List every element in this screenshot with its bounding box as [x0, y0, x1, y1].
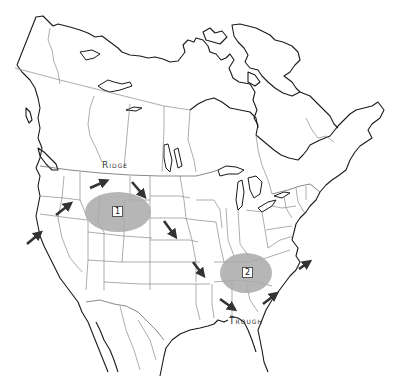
border-sask-manitoba	[162, 106, 164, 172]
arrow-plains-south	[193, 262, 203, 275]
arrow-ridge-west	[90, 181, 106, 188]
border-quebec-labrador	[306, 118, 334, 142]
haida-gwaii	[26, 108, 32, 123]
us-state-borders	[40, 172, 306, 320]
lake-athabasca	[126, 107, 142, 111]
lake-huron	[248, 176, 262, 198]
arrow-southeast	[263, 294, 276, 304]
lake-superior	[218, 166, 244, 176]
border-ab-sask	[124, 104, 130, 168]
mexico-state-borders	[120, 306, 156, 370]
arctic-islands	[203, 24, 300, 96]
border-yukon	[48, 28, 60, 84]
border-us-mexico	[86, 300, 164, 340]
zone-1-badge: 1	[112, 206, 123, 217]
border-bc-alberta	[88, 96, 102, 162]
border-us-canada	[40, 166, 320, 194]
north-america-map	[0, 0, 394, 382]
ridge-label: Ridge	[102, 160, 128, 170]
great-slave-lake	[98, 80, 132, 92]
coastline-baja	[88, 322, 118, 372]
arrow-pacific-nw	[56, 204, 70, 215]
coastline-east-canada	[256, 102, 384, 192]
great-bear-lake	[80, 50, 100, 60]
coastline-west	[17, 65, 88, 322]
arrow-plains-north	[164, 221, 175, 236]
trough-label: Trough	[229, 316, 263, 326]
labrador-coast	[300, 92, 338, 128]
coastline-north	[17, 16, 258, 135]
arrow-atlantic	[299, 262, 309, 269]
border-manitoba-ontario	[188, 110, 196, 172]
arrow-pacific-coast	[27, 233, 40, 244]
arrow-ridge-east	[132, 182, 144, 196]
hudson-bay-coast	[190, 98, 258, 128]
lake-winnipeg	[164, 144, 182, 172]
lake-michigan	[236, 180, 244, 210]
zone-2-badge: 2	[242, 267, 253, 278]
